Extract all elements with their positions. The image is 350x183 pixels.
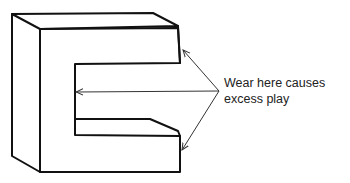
block-front-face: [40, 28, 180, 172]
block-left-face: [12, 14, 40, 172]
lower-arm-top-face: [75, 119, 180, 136]
arrow-middle: [76, 91, 219, 92]
arrow-upper: [183, 50, 219, 91]
wear-callout-label: Wear here causes excess play: [224, 75, 325, 107]
upper-arm-right-edge: [178, 26, 180, 63]
callout-line-1: Wear here causes: [224, 75, 325, 91]
arrow-lower: [182, 91, 219, 150]
c-block: [12, 13, 180, 172]
callout-line-2: excess play: [224, 91, 325, 107]
